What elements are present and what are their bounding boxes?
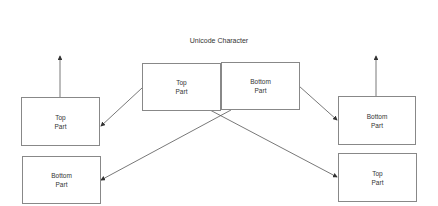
arrow-to-left-top bbox=[101, 88, 142, 126]
center-bottom-part-box: Bottom Part bbox=[221, 62, 300, 110]
right-bottom-part-box: Bottom Part bbox=[338, 96, 416, 145]
arrow-to-right-bottom bbox=[299, 86, 337, 120]
box-label: Top Part bbox=[176, 78, 188, 96]
arrow-to-right-top bbox=[210, 110, 337, 177]
box-label: Top Part bbox=[372, 169, 384, 187]
arrow-to-left-bottom bbox=[101, 110, 231, 180]
box-label: Bottom Part bbox=[250, 77, 271, 95]
left-bottom-part-box: Bottom Part bbox=[22, 156, 101, 204]
box-label: Bottom Part bbox=[51, 171, 72, 189]
right-top-part-box: Top Part bbox=[338, 153, 417, 202]
center-top-part-box: Top Part bbox=[142, 63, 221, 111]
box-label: Top Part bbox=[55, 113, 67, 131]
left-top-part-box: Top Part bbox=[21, 97, 100, 146]
box-label: Bottom Part bbox=[367, 112, 388, 130]
